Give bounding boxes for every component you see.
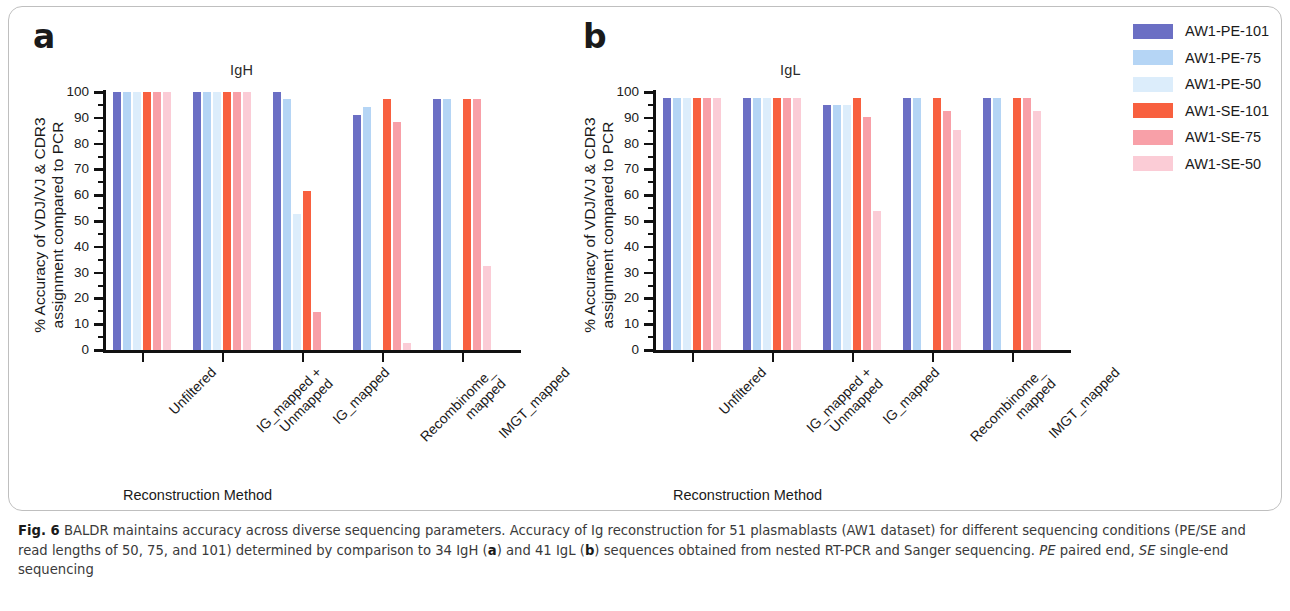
bar: [933, 98, 941, 350]
y-axis-tick-label: 70: [55, 162, 89, 176]
bar: [693, 98, 701, 350]
panel-b-letter: b: [583, 20, 607, 53]
x-tick-label-line1: IG_mapped: [879, 364, 942, 427]
chart-legend: AW1-PE-101AW1-PE-75AW1-PE-50AW1-SE-101AW…: [1133, 18, 1283, 177]
y-axis-tick: [644, 297, 653, 300]
bar: [403, 343, 411, 350]
legend-label: AW1-SE-75: [1185, 129, 1261, 145]
y-axis-tick: [644, 272, 653, 275]
bar: [473, 99, 481, 350]
x-tick-label-line1: IMGT_mapped: [495, 364, 572, 441]
legend-label: AW1-PE-101: [1185, 23, 1269, 39]
y-axis-tick-label: 20: [55, 291, 89, 305]
x-axis-tick-label: IG_mapped +Unmapped: [253, 364, 336, 447]
panel-a-x-axis-caption: Reconstruction Method: [123, 487, 272, 503]
legend-item: AW1-PE-101: [1133, 18, 1283, 45]
y-axis-tick-label: 30: [605, 266, 639, 280]
x-tick-label-line1: Unfiltered: [165, 364, 219, 418]
y-axis-tick-label: 30: [55, 266, 89, 280]
bar: [773, 98, 781, 350]
y-axis-tick-label: 90: [55, 111, 89, 125]
y-axis-tick: [94, 117, 103, 120]
y-axis-line: [103, 90, 106, 353]
legend-item: AW1-PE-50: [1133, 71, 1283, 98]
bar: [233, 92, 241, 350]
x-axis-line: [653, 350, 1071, 353]
bar: [1013, 98, 1021, 350]
y-axis-minor-tick: [98, 104, 103, 106]
legend-swatch: [1133, 50, 1173, 65]
y-axis-minor-tick: [648, 233, 653, 235]
bar: [873, 211, 881, 350]
y-axis-tick-label: 50: [55, 214, 89, 228]
y-axis-minor-tick: [98, 310, 103, 312]
y-axis-label-line1: % Accuracy of VDJ/VJ & CDR3: [581, 117, 598, 332]
y-axis-tick: [94, 246, 103, 249]
y-axis-tick-label: 10: [605, 317, 639, 331]
x-axis-tick: [302, 353, 305, 362]
bar: [243, 92, 251, 350]
y-axis-tick-label: 60: [605, 188, 639, 202]
bar: [223, 92, 231, 350]
panel-b-title: IgL: [780, 62, 801, 78]
bar: [1023, 98, 1031, 350]
bar: [763, 98, 771, 350]
y-axis-tick-label: 20: [605, 291, 639, 305]
y-axis-tick: [644, 323, 653, 326]
y-axis-minor-tick: [98, 156, 103, 158]
bar: [943, 111, 951, 350]
y-axis-minor-tick: [98, 336, 103, 338]
legend-item: AW1-SE-50: [1133, 151, 1283, 178]
panel-a: a IgH % Accuracy of VDJ/VJ & CDR3 assign…: [0, 0, 600, 520]
x-axis-tick-label: IG_mapped: [879, 364, 942, 427]
legend-label: AW1-SE-101: [1185, 103, 1269, 119]
legend-swatch: [1133, 103, 1173, 118]
x-axis-tick: [932, 353, 935, 362]
y-axis-minor-tick: [648, 285, 653, 287]
caption-bold-a: a: [488, 543, 497, 558]
legend-swatch: [1133, 24, 1173, 39]
caption-bold-b: b: [585, 543, 594, 558]
x-tick-label-line1: IMGT_mapped: [1045, 364, 1122, 441]
bar: [683, 98, 691, 350]
x-axis-tick: [692, 353, 695, 362]
y-axis-tick: [94, 297, 103, 300]
y-axis-tick-label: 10: [55, 317, 89, 331]
legend-label: AW1-PE-50: [1185, 76, 1261, 92]
bar: [673, 98, 681, 350]
y-axis-minor-tick: [98, 259, 103, 261]
bar: [953, 130, 961, 350]
bar: [353, 115, 361, 350]
bar: [383, 99, 391, 350]
bar: [703, 98, 711, 350]
bar: [903, 98, 911, 350]
x-axis-tick: [772, 353, 775, 362]
panel-a-letter: a: [33, 20, 55, 53]
y-axis-minor-tick: [648, 336, 653, 338]
legend-label: AW1-PE-75: [1185, 50, 1261, 66]
bar: [783, 98, 791, 350]
x-axis-tick: [142, 353, 145, 362]
bar: [833, 105, 841, 350]
bar: [463, 99, 471, 350]
y-axis-tick: [94, 194, 103, 197]
y-axis-tick: [94, 220, 103, 223]
y-axis-tick: [94, 272, 103, 275]
y-axis-tick-label: 90: [605, 111, 639, 125]
y-axis-label-line1: % Accuracy of VDJ/VJ & CDR3: [31, 117, 48, 332]
bar: [853, 98, 861, 350]
bar: [133, 92, 141, 350]
y-axis-minor-tick: [98, 181, 103, 183]
legend-swatch: [1133, 130, 1173, 145]
y-axis-tick: [94, 323, 103, 326]
y-axis-minor-tick: [98, 233, 103, 235]
y-axis-tick-label: 100: [55, 85, 89, 99]
legend-item: AW1-SE-101: [1133, 98, 1283, 125]
x-axis-line: [103, 350, 521, 353]
y-axis-tick: [644, 220, 653, 223]
bar: [363, 107, 371, 350]
y-axis-tick-label: 0: [55, 343, 89, 357]
y-axis-tick: [644, 143, 653, 146]
y-axis-tick: [94, 143, 103, 146]
y-axis-minor-tick: [648, 259, 653, 261]
